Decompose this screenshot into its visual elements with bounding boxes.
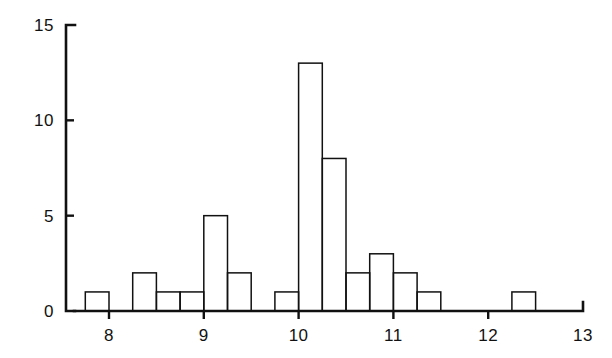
histogram-bar (417, 292, 441, 311)
histogram-bar (180, 292, 204, 311)
y-axis-tick-labels: 051015 (34, 16, 54, 321)
histogram-bars (85, 63, 535, 311)
histogram-bar (228, 273, 252, 311)
y-axis-label-10: 10 (34, 111, 54, 130)
histogram-bar (156, 292, 180, 311)
histogram-bar (299, 63, 323, 311)
x-axis-label-13: 13 (573, 326, 593, 345)
x-axis-label-9: 9 (199, 326, 209, 345)
x-axis-label-8: 8 (104, 326, 114, 345)
histogram-bar (322, 158, 346, 311)
histogram-chart: 051015 8910111213 (0, 0, 612, 358)
x-axis-label-11: 11 (384, 326, 403, 345)
histogram-bar (512, 292, 536, 311)
x-axis-spine (74, 302, 583, 311)
x-axis-label-12: 12 (478, 326, 498, 345)
histogram-bar (204, 216, 228, 311)
histogram-svg: 051015 8910111213 (0, 0, 612, 358)
histogram-bar (85, 292, 109, 311)
y-axis-label-15: 15 (34, 16, 54, 35)
histogram-bar (393, 273, 417, 311)
x-axis-tick-labels: 8910111213 (104, 326, 593, 345)
y-axis (66, 25, 75, 311)
histogram-bar (133, 273, 157, 311)
histogram-bar (370, 254, 394, 311)
histogram-bar (346, 273, 370, 311)
y-axis-label-5: 5 (44, 207, 54, 226)
y-axis-label-0: 0 (44, 302, 54, 321)
x-axis-label-10: 10 (289, 326, 309, 345)
y-axis-spine (66, 25, 75, 311)
histogram-bar (275, 292, 299, 311)
